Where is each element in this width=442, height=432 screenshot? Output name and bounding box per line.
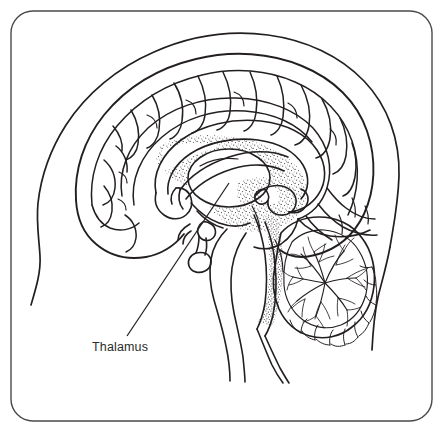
thalamus-label: Thalamus bbox=[92, 340, 148, 354]
figure-root: Thalamus bbox=[0, 0, 442, 432]
brain-diagram-svg: Thalamus bbox=[0, 0, 442, 432]
